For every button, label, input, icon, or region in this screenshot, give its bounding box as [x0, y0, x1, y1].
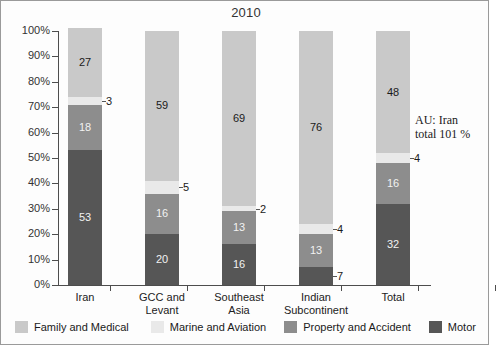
y-axis-tick-label: 70% — [6, 101, 50, 112]
bar-segment[interactable]: 13 — [222, 211, 256, 244]
bar-segment-value: 3 — [106, 95, 112, 106]
bar-segment[interactable]: 3 — [68, 97, 102, 105]
legend-color-swatch — [429, 321, 442, 333]
legend-label: Motor — [448, 321, 476, 333]
bar-segment-value: 18 — [79, 122, 91, 133]
y-axis-tick-label: 20% — [6, 228, 50, 239]
bar-segment-value: 7 — [337, 271, 343, 282]
x-axis-category-label: Total — [345, 291, 441, 304]
x-axis-category-label-line: Total — [345, 291, 441, 304]
y-axis-tick-label: 80% — [6, 76, 50, 87]
plot-area: 2731853595162069213167641374841632 — [58, 31, 431, 285]
bar-segment[interactable]: 48 — [376, 31, 410, 153]
bar-segment[interactable]: 5 — [145, 181, 179, 194]
bar-column[interactable]: 5951620 — [145, 31, 179, 285]
bar-segment[interactable]: 20 — [145, 234, 179, 285]
bar-segment-value: 32 — [387, 239, 399, 250]
bar-segment-value: 4 — [414, 153, 420, 164]
x-axis-line — [58, 285, 431, 286]
bar-segment[interactable]: 7 — [299, 267, 333, 285]
y-axis-tick-label: 60% — [6, 127, 50, 138]
bar-segment-value: 69 — [233, 113, 245, 124]
y-axis-tick-label: 100% — [6, 25, 50, 36]
bar-segment-value: 76 — [310, 122, 322, 133]
bar-segment[interactable]: 16 — [222, 244, 256, 285]
bar-segment-value: 13 — [233, 222, 245, 233]
bar-segment[interactable]: 4 — [376, 153, 410, 163]
bar-segment[interactable]: 53 — [68, 150, 102, 285]
bar-segment-value: 16 — [156, 208, 168, 219]
y-axis-tick-label: 90% — [6, 50, 50, 61]
y-axis-tick-label: 0% — [6, 279, 50, 290]
bar-segment[interactable]: 32 — [376, 204, 410, 285]
legend-label: Marine and Aviation — [170, 321, 266, 333]
x-axis-category-label-line: Subcontinent — [268, 304, 364, 317]
legend-color-swatch — [151, 321, 164, 333]
au-note-line-1: AU: Iran — [415, 113, 491, 127]
legend-label: Property and Accident — [303, 321, 411, 333]
legend-color-swatch — [284, 321, 297, 333]
bar-segment-value: 48 — [387, 87, 399, 98]
bar-segment[interactable]: 69 — [222, 31, 256, 206]
bar-segment-value: 16 — [387, 178, 399, 189]
y-axis-tick-label: 50% — [6, 152, 50, 163]
legend-color-swatch — [15, 321, 28, 333]
bar-column[interactable]: 6921316 — [222, 31, 256, 285]
y-axis-tick-label: 10% — [6, 254, 50, 265]
legend-item[interactable]: Marine and Aviation — [151, 321, 266, 333]
legend-item[interactable]: Property and Accident — [284, 321, 411, 333]
bar-segment-value: 27 — [79, 57, 91, 68]
bar-segment[interactable]: 16 — [145, 194, 179, 235]
legend-item[interactable]: Motor — [429, 321, 476, 333]
y-axis-tick-label: 30% — [6, 203, 50, 214]
bar-segment[interactable]: 59 — [145, 31, 179, 181]
legend-item[interactable]: Family and Medical — [15, 321, 129, 333]
bar-segment-value: 4 — [337, 224, 343, 235]
legend-label: Family and Medical — [34, 321, 129, 333]
y-axis-tick-label: 40% — [6, 177, 50, 188]
bar-segment[interactable]: 13 — [299, 234, 333, 267]
bar-segment[interactable]: 76 — [299, 31, 333, 224]
bar-column[interactable]: 764137 — [299, 31, 333, 285]
bar-column[interactable]: 2731853 — [68, 28, 102, 285]
bar-segment-value: 59 — [156, 100, 168, 111]
bar-segment[interactable]: 18 — [68, 105, 102, 151]
bar-segment[interactable]: 4 — [299, 224, 333, 234]
bar-segment-value: 16 — [233, 259, 245, 270]
au-note-annotation: AU: Iran total 101 % — [415, 113, 491, 141]
bar-segment-value: 2 — [260, 203, 266, 214]
bar-segment[interactable]: 27 — [68, 28, 102, 97]
au-note-line-2: total 101 % — [415, 127, 491, 141]
bar-column[interactable]: 4841632 — [376, 31, 410, 285]
bar-segment-value: 5 — [183, 182, 189, 193]
bar-segment-value: 20 — [156, 254, 168, 265]
chart-legend: Family and MedicalMarine and AviationPro… — [15, 319, 477, 335]
chart-frame: 2010 100%90%80%70%60%50%40%30%20%10%0% 2… — [0, 0, 489, 345]
chart-title: 2010 — [1, 5, 491, 20]
bar-segment-value: 53 — [79, 212, 91, 223]
bar-segment-value: 13 — [310, 245, 322, 256]
bar-segment[interactable]: 16 — [376, 163, 410, 204]
